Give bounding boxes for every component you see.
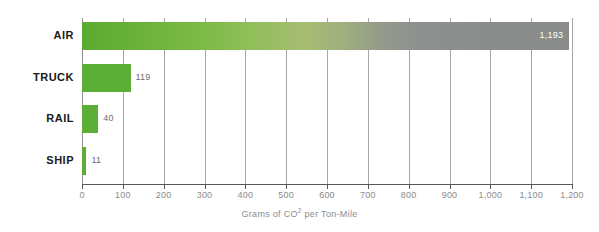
x-tick xyxy=(286,184,287,189)
bar-row xyxy=(82,64,572,92)
bar-air xyxy=(82,22,569,50)
bar-rail xyxy=(82,105,98,133)
x-tick xyxy=(82,184,83,189)
category-label-truck: TRUCK xyxy=(0,71,74,83)
x-tick xyxy=(409,184,410,189)
x-tick xyxy=(164,184,165,189)
x-tick xyxy=(531,184,532,189)
x-tick xyxy=(490,184,491,189)
category-label-ship: SHIP xyxy=(0,154,74,166)
x-tick xyxy=(245,184,246,189)
x-tick xyxy=(368,184,369,189)
x-axis-title: Grams of CO2 per Ton-Mile xyxy=(0,209,599,219)
value-label-rail: 40 xyxy=(103,113,113,123)
bar-chart: 01002003004005006007008009001,0001,1001,… xyxy=(0,0,599,232)
x-tick-label: 1,200 xyxy=(547,190,597,200)
bar-ship xyxy=(82,147,86,175)
gridline xyxy=(572,18,573,184)
value-label-air: 1,193 xyxy=(539,30,563,40)
x-tick xyxy=(205,184,206,189)
x-tick xyxy=(327,184,328,189)
x-tick xyxy=(123,184,124,189)
bar-row xyxy=(82,22,572,50)
x-axis-title-prefix: Grams of CO xyxy=(242,209,298,219)
plot-area xyxy=(82,18,572,184)
value-label-truck: 119 xyxy=(136,72,151,82)
x-tick xyxy=(572,184,573,189)
bar-row xyxy=(82,105,572,133)
bar-row xyxy=(82,147,572,175)
bar-truck xyxy=(82,64,131,92)
category-label-air: AIR xyxy=(0,29,74,41)
value-label-ship: 11 xyxy=(91,155,101,165)
x-axis-title-suffix: per Ton-Mile xyxy=(302,209,358,219)
x-tick xyxy=(450,184,451,189)
category-label-rail: RAIL xyxy=(0,112,74,124)
